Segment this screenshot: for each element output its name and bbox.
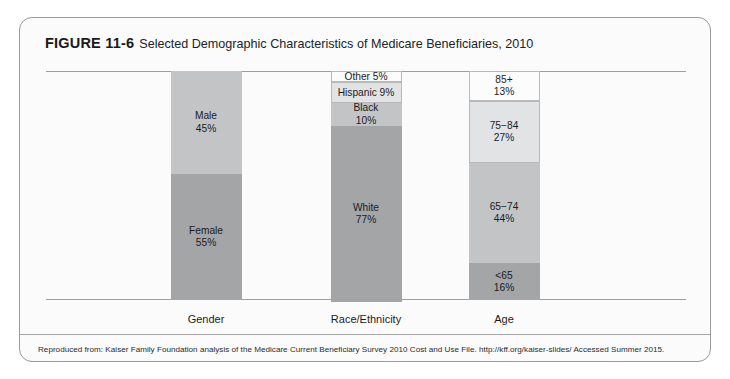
segment-value: 13%	[494, 86, 514, 98]
figure-number: FIGURE 11-6	[45, 35, 134, 51]
segment-label: 75−84	[490, 120, 519, 132]
bar-segment: Female55%	[171, 174, 242, 300]
bar-segment: <6516%	[469, 263, 540, 300]
bar-group-race-ethnicity: Other 5%Hispanic 9%Black10%White77% Race…	[306, 71, 426, 300]
segment-label: Female	[189, 225, 223, 237]
axis-label-gender: Gender	[146, 313, 266, 325]
segment-value: 55%	[196, 237, 216, 249]
bar-segment: 65−7444%	[469, 163, 540, 264]
bar-stack: Other 5%Hispanic 9%Black10%White77%	[331, 71, 402, 300]
segment-value: 44%	[494, 213, 514, 225]
segment-label: White	[353, 202, 379, 214]
bar-segment: White77%	[331, 126, 402, 302]
page-title: Selected Demographic Characteristics of …	[139, 37, 533, 51]
segment-label: Black	[354, 103, 379, 114]
segment-label: 85+	[495, 74, 512, 86]
bar-stack: Male45%Female55%	[171, 71, 242, 300]
segment-label: Male	[195, 110, 217, 122]
axis-label-race-ethnicity: Race/Ethnicity	[306, 313, 426, 325]
axis-label-age: Age	[444, 313, 564, 325]
segment-value: 45%	[196, 123, 216, 135]
segment-label: <65	[495, 270, 512, 282]
segment-label: Hispanic 9%	[338, 87, 395, 99]
chart-plot-area: Male45%Female55% Gender Other 5%Hispanic…	[46, 71, 686, 336]
segment-value: 16%	[494, 282, 514, 294]
segment-label: 65−74	[490, 201, 519, 213]
segment-value: 10%	[356, 115, 376, 126]
bar-group-gender: Male45%Female55% Gender	[146, 71, 266, 300]
footer-divider	[20, 334, 710, 335]
figure-title-bar: FIGURE 11-6Selected Demographic Characte…	[45, 34, 690, 56]
bar-stack: 85+13%75−8427%65−7444%<6516%	[469, 71, 540, 300]
segment-value: 77%	[356, 214, 376, 226]
bar-segment: 85+13%	[469, 71, 540, 101]
segment-label: Other 5%	[344, 71, 387, 82]
bar-segment: 75−8427%	[469, 101, 540, 163]
bar-segment: Hispanic 9%	[331, 82, 402, 103]
bar-segment: Male45%	[171, 71, 242, 174]
bar-segment: Black10%	[331, 103, 402, 126]
segment-value: 27%	[494, 132, 514, 144]
source-citation: Reproduced from: Kaiser Family Foundatio…	[38, 345, 692, 354]
bar-segment: Other 5%	[331, 71, 402, 82]
bar-group-age: 85+13%75−8427%65−7444%<6516% Age	[444, 71, 564, 300]
figure-card: FIGURE 11-6Selected Demographic Characte…	[19, 17, 711, 362]
